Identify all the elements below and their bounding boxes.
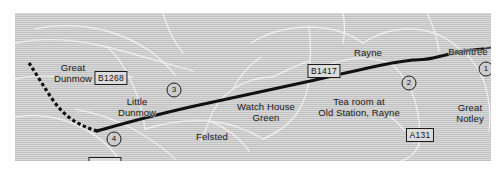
stop-marker-stop-1[interactable]: 1 — [479, 62, 492, 77]
stop-marker-stop-3[interactable]: 3 — [167, 83, 182, 98]
place-label-great-dunmow: Great Dunmow — [54, 63, 92, 84]
road-badge-b1008: B1008 — [88, 157, 121, 161]
place-label-great-notley: Great Notley — [456, 103, 484, 124]
road-badge-b1268: B1268 — [94, 71, 127, 85]
place-label-braintree: Braintree — [448, 47, 487, 58]
place-label-little-dunmow: Little Dunmow — [118, 97, 156, 118]
route-map-figure: Great DunmowLittle DunmowWatch House Gre… — [0, 0, 504, 176]
road-badge-b1417: B1417 — [307, 64, 340, 78]
place-label-watch-house-green: Watch House Green — [237, 102, 295, 123]
place-label-rayne: Rayne — [354, 48, 382, 59]
stop-marker-stop-4[interactable]: 4 — [107, 132, 122, 147]
map-canvas: Great DunmowLittle DunmowWatch House Gre… — [15, 13, 491, 161]
stop-marker-stop-2[interactable]: 2 — [402, 76, 417, 91]
road-badge-a131: A131 — [406, 128, 434, 142]
place-label-tea-room: Tea room at Old Station, Rayne — [318, 97, 400, 118]
place-label-felsted: Felsted — [196, 132, 228, 143]
